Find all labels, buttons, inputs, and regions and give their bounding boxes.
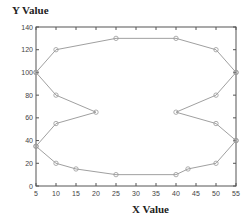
chart-plot: 510152025303540455055020406080100120140 bbox=[0, 0, 251, 223]
x-tick-label: 10 bbox=[52, 190, 60, 197]
x-tick-label: 20 bbox=[92, 190, 100, 197]
x-tick-label: 40 bbox=[172, 190, 180, 197]
x-tick-label: 5 bbox=[34, 190, 38, 197]
y-tick-label: 120 bbox=[21, 46, 33, 53]
series-line-top bbox=[36, 38, 236, 72]
y-tick-label: 140 bbox=[21, 24, 33, 31]
y-tick-label: 60 bbox=[25, 114, 33, 121]
series-line-bottom bbox=[36, 141, 236, 175]
y-tick-label: 0 bbox=[29, 183, 33, 190]
y-tick-label: 40 bbox=[25, 137, 33, 144]
series-line-left-inner bbox=[36, 72, 96, 146]
x-tick-label: 45 bbox=[192, 190, 200, 197]
x-tick-label: 15 bbox=[72, 190, 80, 197]
axes-frame bbox=[36, 27, 236, 186]
x-tick-label: 55 bbox=[232, 190, 240, 197]
y-tick-label: 100 bbox=[21, 69, 33, 76]
x-tick-label: 30 bbox=[132, 190, 140, 197]
x-tick-label: 35 bbox=[152, 190, 160, 197]
x-tick-label: 25 bbox=[112, 190, 120, 197]
series-line-right-inner bbox=[176, 72, 236, 140]
x-tick-label: 50 bbox=[212, 190, 220, 197]
y-tick-label: 80 bbox=[25, 92, 33, 99]
y-tick-label: 20 bbox=[25, 160, 33, 167]
